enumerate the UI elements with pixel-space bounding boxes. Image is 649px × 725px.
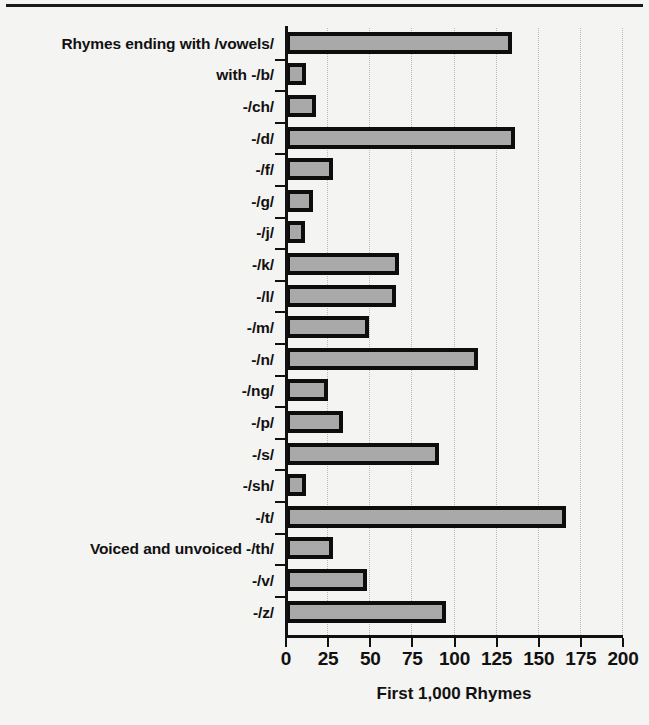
bar xyxy=(286,95,316,117)
category-label: -/f/ xyxy=(0,161,274,179)
y-axis-tick xyxy=(275,59,285,61)
bar xyxy=(286,63,306,85)
x-axis-tick xyxy=(580,638,582,647)
y-axis-line xyxy=(285,26,288,637)
category-label: -/ch/ xyxy=(0,98,274,116)
gridline-100 xyxy=(454,28,456,635)
category-label: -/m/ xyxy=(0,319,274,337)
bar xyxy=(286,348,478,370)
bar xyxy=(286,601,446,623)
y-axis-tick xyxy=(275,375,285,377)
x-axis-tick xyxy=(327,638,329,647)
category-label: Rhymes ending with /vowels/ xyxy=(0,35,274,53)
x-axis-tick xyxy=(622,638,624,647)
y-axis-tick xyxy=(275,185,285,187)
bar xyxy=(286,411,343,433)
gridline-175 xyxy=(580,28,582,635)
bar xyxy=(286,190,313,212)
y-axis-tick xyxy=(275,280,285,282)
y-axis-tick xyxy=(275,469,285,471)
x-axis-tick-label: 200 xyxy=(593,648,649,670)
category-label: -/s/ xyxy=(0,446,274,464)
y-axis-tick xyxy=(275,248,285,250)
x-axis-tick xyxy=(538,638,540,647)
bar xyxy=(286,32,512,54)
bar xyxy=(286,506,566,528)
bar xyxy=(286,253,399,275)
category-label: -/t/ xyxy=(0,509,274,527)
y-axis-tick xyxy=(275,501,285,503)
bar xyxy=(286,379,328,401)
category-label: -/n/ xyxy=(0,351,274,369)
bar xyxy=(286,474,306,496)
gridline-75 xyxy=(411,28,413,635)
bar xyxy=(286,127,515,149)
gridline-150 xyxy=(538,28,540,635)
y-axis-tick xyxy=(275,343,285,345)
y-axis-tick xyxy=(275,596,285,598)
category-label: -/k/ xyxy=(0,256,274,274)
category-label: -/l/ xyxy=(0,288,274,306)
x-axis-title: First 1,000 Rhymes xyxy=(285,684,623,704)
bar xyxy=(286,158,333,180)
category-label: Voiced and unvoiced -/th/ xyxy=(0,540,274,558)
y-axis-tick xyxy=(275,406,285,408)
gridline-125 xyxy=(496,28,498,635)
x-axis-tick xyxy=(496,638,498,647)
gridline-50 xyxy=(369,28,371,635)
y-axis-tick xyxy=(275,311,285,313)
y-axis-tick xyxy=(275,438,285,440)
y-axis-tick xyxy=(275,564,285,566)
bar xyxy=(286,443,439,465)
category-label: -/j/ xyxy=(0,224,274,242)
bar xyxy=(286,537,333,559)
bar xyxy=(286,569,367,591)
x-axis-tick xyxy=(285,638,287,647)
y-axis-tick xyxy=(275,217,285,219)
y-axis-tick xyxy=(275,533,285,535)
gridline-200 xyxy=(622,28,624,635)
y-axis-tick xyxy=(275,153,285,155)
category-label: -/z/ xyxy=(0,604,274,622)
x-axis-tick xyxy=(411,638,413,647)
category-label: with -/b/ xyxy=(0,66,274,84)
y-axis-tick xyxy=(275,122,285,124)
bar-chart-plot-area: Rhymes ending with /vowels/with -/b/-/ch… xyxy=(0,0,649,725)
category-label: -/sh/ xyxy=(0,477,274,495)
bar xyxy=(286,221,305,243)
category-label: -/v/ xyxy=(0,572,274,590)
category-label: -/g/ xyxy=(0,193,274,211)
category-label: -/ng/ xyxy=(0,382,274,400)
y-axis-tick xyxy=(275,90,285,92)
x-axis-tick xyxy=(454,638,456,647)
category-label: -/p/ xyxy=(0,414,274,432)
x-axis-tick xyxy=(369,638,371,647)
chart-page: Rhymes ending with /vowels/with -/b/-/ch… xyxy=(0,0,649,725)
category-label: -/d/ xyxy=(0,130,274,148)
bar xyxy=(286,285,396,307)
bar xyxy=(286,316,369,338)
